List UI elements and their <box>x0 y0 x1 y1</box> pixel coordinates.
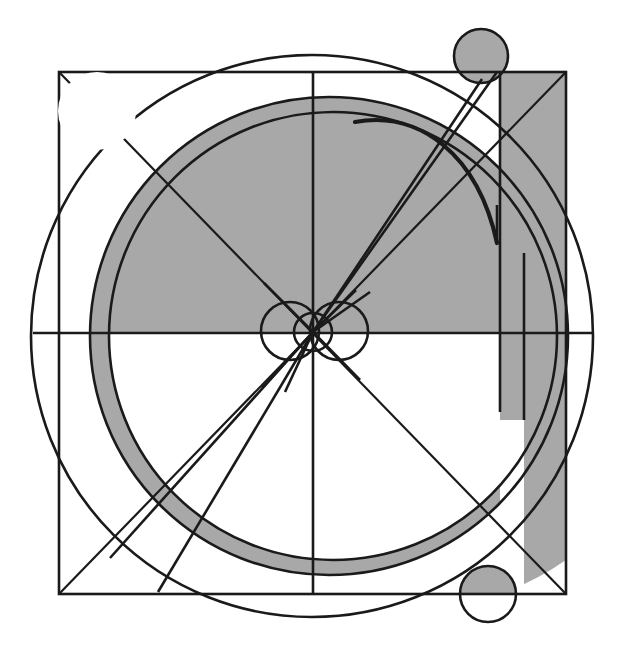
geometric-figure <box>0 0 621 660</box>
circle-top-left <box>58 72 136 150</box>
strip-notch-white <box>500 420 524 594</box>
figure-canvas <box>0 0 621 660</box>
